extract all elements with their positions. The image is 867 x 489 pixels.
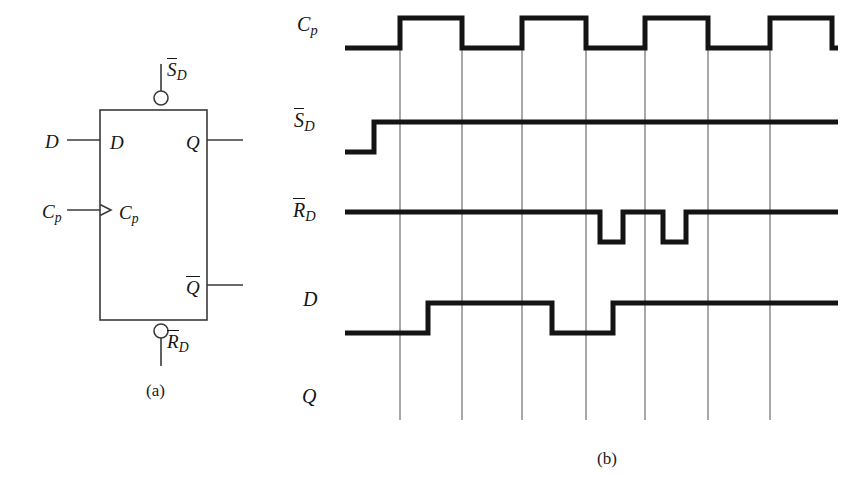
timing-row-label-rdbar: RD [293, 198, 316, 220]
caption-panel-b: (b) [597, 449, 617, 469]
symbol-pin-label-cp: Cp [119, 203, 139, 222]
waveform-d [345, 303, 838, 333]
clock-edge-triangle-icon [100, 205, 111, 216]
waveform-rdbar [345, 212, 838, 242]
caption-panel-a: (a) [146, 381, 165, 401]
timing-row-label-q: Q [302, 386, 316, 406]
symbol-port-label-cp: Cp [42, 202, 62, 221]
symbol-pin-label-q: Q [186, 133, 200, 152]
symbol-port-label-d: D [45, 132, 59, 151]
timing-row-label-sdbar: SD [294, 108, 314, 130]
reset-bubble-icon [154, 324, 168, 338]
waveform-cp [345, 18, 838, 48]
figure-drawing [0, 0, 867, 489]
symbol-port-label-sdbar: SD [167, 58, 186, 79]
figure-root: DCpQQDCpSDRD CpSDRDDQ (a)(b) [0, 0, 867, 489]
symbol-pin-label-d: D [110, 133, 124, 152]
set-bubble-icon [154, 91, 168, 105]
symbol-pin-label-qbar: Q [186, 276, 200, 297]
timing-row-label-d: D [303, 289, 317, 309]
timing-row-label-cp: Cp [297, 14, 318, 34]
symbol-port-label-rdbar: RD [167, 330, 188, 351]
waveform-sdbar [345, 122, 838, 152]
